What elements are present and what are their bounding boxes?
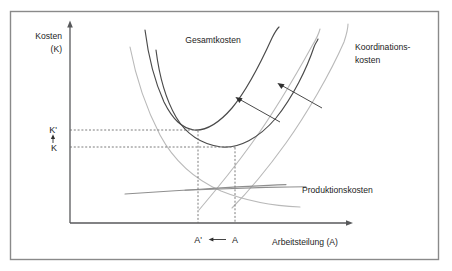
- y-axis-title-line2: (K): [51, 44, 63, 54]
- figure-container: K' K A' A Kosten (K) Arbeitsteilung (A) …: [0, 0, 452, 271]
- y-axis-title-line1: Kosten: [35, 31, 62, 41]
- y-tick-label-k: K: [51, 143, 57, 153]
- coordination-cost-label-line2: kosten: [355, 55, 381, 65]
- production-cost-label: Produktionskosten: [302, 185, 373, 195]
- x-tick-label-a-prime: A': [194, 235, 202, 245]
- total-cost-label: Gesamtkosten: [185, 35, 241, 45]
- y-tick-label-k-prime: K': [49, 125, 57, 135]
- cost-diagram: K' K A' A Kosten (K) Arbeitsteilung (A) …: [0, 0, 452, 271]
- coordination-cost-label-line1: Koordinations-: [355, 42, 411, 52]
- x-tick-label-a: A: [232, 235, 238, 245]
- x-axis-title: Arbeitsteilung (A): [272, 237, 338, 247]
